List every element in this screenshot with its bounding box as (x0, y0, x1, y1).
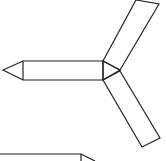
lower-arm-shape (103, 71, 160, 147)
diagram-canvas (0, 0, 166, 161)
upper-arm-shape (103, 0, 159, 70)
hub-triangle (103, 61, 120, 80)
left-arm-shape (3, 61, 103, 80)
